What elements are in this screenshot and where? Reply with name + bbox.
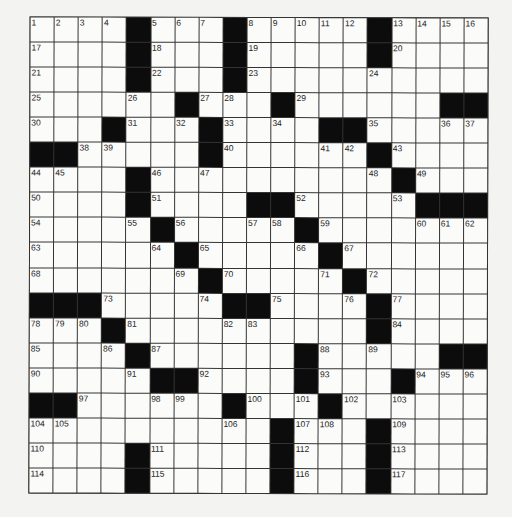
- grid-cell[interactable]: [175, 168, 198, 192]
- grid-cell[interactable]: [368, 219, 391, 243]
- grid-cell[interactable]: 113: [391, 444, 414, 468]
- grid-cell[interactable]: [198, 344, 221, 368]
- grid-cell[interactable]: [344, 68, 367, 92]
- grid-cell[interactable]: [54, 193, 77, 217]
- grid-cell[interactable]: 104: [30, 418, 53, 442]
- grid-cell[interactable]: [464, 319, 487, 343]
- grid-cell[interactable]: [343, 444, 366, 468]
- grid-cell[interactable]: [343, 469, 366, 493]
- grid-cell[interactable]: 46: [151, 168, 174, 192]
- grid-cell[interactable]: [222, 444, 245, 468]
- grid-cell[interactable]: [415, 419, 438, 443]
- grid-cell[interactable]: 58: [271, 218, 294, 242]
- grid-cell[interactable]: 88: [319, 344, 342, 368]
- grid-cell[interactable]: [296, 43, 319, 67]
- grid-cell[interactable]: 74: [199, 293, 222, 317]
- grid-cell[interactable]: 8: [247, 18, 270, 42]
- grid-cell[interactable]: 110: [29, 443, 52, 467]
- grid-cell[interactable]: 18: [151, 43, 174, 67]
- grid-cell[interactable]: 117: [391, 469, 414, 493]
- grid-cell[interactable]: [198, 419, 221, 443]
- grid-cell[interactable]: [440, 294, 463, 318]
- grid-cell[interactable]: [126, 418, 149, 442]
- grid-cell[interactable]: 101: [295, 394, 318, 418]
- grid-cell[interactable]: [174, 419, 197, 443]
- grid-cell[interactable]: [126, 268, 149, 292]
- grid-cell[interactable]: [343, 219, 366, 243]
- grid-cell[interactable]: 63: [30, 243, 53, 267]
- grid-cell[interactable]: 26: [127, 93, 150, 117]
- grid-cell[interactable]: 42: [344, 143, 367, 167]
- grid-cell[interactable]: [174, 444, 197, 468]
- grid-cell[interactable]: [78, 343, 101, 367]
- grid-cell[interactable]: [174, 318, 197, 342]
- grid-cell[interactable]: [271, 269, 294, 293]
- grid-cell[interactable]: [222, 369, 245, 393]
- grid-cell[interactable]: [78, 268, 101, 292]
- grid-cell[interactable]: [295, 168, 318, 192]
- grid-cell[interactable]: [53, 468, 76, 492]
- grid-cell[interactable]: 33: [223, 118, 246, 142]
- grid-cell[interactable]: [343, 419, 366, 443]
- grid-cell[interactable]: [79, 68, 102, 92]
- grid-cell[interactable]: [344, 93, 367, 117]
- grid-cell[interactable]: [463, 419, 486, 443]
- grid-cell[interactable]: 3: [79, 18, 102, 42]
- grid-cell[interactable]: [464, 69, 487, 93]
- grid-cell[interactable]: 2: [55, 17, 78, 41]
- grid-cell[interactable]: 47: [199, 168, 222, 192]
- grid-cell[interactable]: 21: [30, 67, 53, 91]
- grid-cell[interactable]: [319, 444, 342, 468]
- grid-cell[interactable]: 103: [391, 394, 414, 418]
- grid-cell[interactable]: [415, 344, 438, 368]
- grid-cell[interactable]: [79, 93, 102, 117]
- grid-cell[interactable]: 30: [30, 118, 53, 142]
- grid-cell[interactable]: [126, 293, 149, 317]
- grid-cell[interactable]: 50: [30, 193, 53, 217]
- grid-cell[interactable]: 107: [295, 419, 318, 443]
- grid-cell[interactable]: [54, 93, 77, 117]
- grid-cell[interactable]: [367, 394, 390, 418]
- grid-cell[interactable]: 25: [30, 93, 53, 117]
- grid-cell[interactable]: [54, 343, 77, 367]
- grid-cell[interactable]: 44: [30, 168, 53, 192]
- grid-cell[interactable]: 86: [102, 343, 125, 367]
- grid-cell[interactable]: [102, 218, 125, 242]
- grid-cell[interactable]: [151, 93, 174, 117]
- grid-cell[interactable]: [79, 118, 102, 142]
- grid-cell[interactable]: [247, 118, 270, 142]
- grid-cell[interactable]: [416, 244, 439, 268]
- grid-cell[interactable]: [271, 244, 294, 268]
- grid-cell[interactable]: 89: [367, 344, 390, 368]
- grid-cell[interactable]: [416, 94, 439, 118]
- grid-cell[interactable]: 5: [151, 18, 174, 42]
- grid-cell[interactable]: [102, 418, 125, 442]
- grid-cell[interactable]: 97: [78, 393, 101, 417]
- grid-cell[interactable]: [319, 294, 342, 318]
- grid-cell[interactable]: 105: [54, 418, 77, 442]
- grid-cell[interactable]: [415, 469, 438, 493]
- grid-cell[interactable]: 14: [416, 18, 439, 42]
- grid-cell[interactable]: 29: [296, 93, 319, 117]
- grid-cell[interactable]: 95: [439, 369, 462, 393]
- grid-cell[interactable]: [174, 469, 197, 493]
- grid-cell[interactable]: [150, 318, 173, 342]
- grid-cell[interactable]: [391, 344, 414, 368]
- grid-cell[interactable]: [392, 68, 415, 92]
- grid-cell[interactable]: [415, 444, 438, 468]
- grid-cell[interactable]: [78, 168, 101, 192]
- grid-cell[interactable]: [223, 193, 246, 217]
- grid-cell[interactable]: 10: [296, 18, 319, 42]
- grid-cell[interactable]: 66: [295, 244, 318, 268]
- grid-cell[interactable]: 48: [368, 169, 391, 193]
- grid-cell[interactable]: [463, 444, 486, 468]
- grid-cell[interactable]: [55, 43, 78, 67]
- grid-cell[interactable]: [223, 218, 246, 242]
- grid-cell[interactable]: 116: [295, 469, 318, 493]
- grid-cell[interactable]: [246, 469, 269, 493]
- grid-cell[interactable]: 53: [392, 194, 415, 218]
- grid-cell[interactable]: 11: [320, 18, 343, 42]
- grid-cell[interactable]: 56: [175, 218, 198, 242]
- grid-cell[interactable]: [78, 443, 101, 467]
- grid-cell[interactable]: [440, 169, 463, 193]
